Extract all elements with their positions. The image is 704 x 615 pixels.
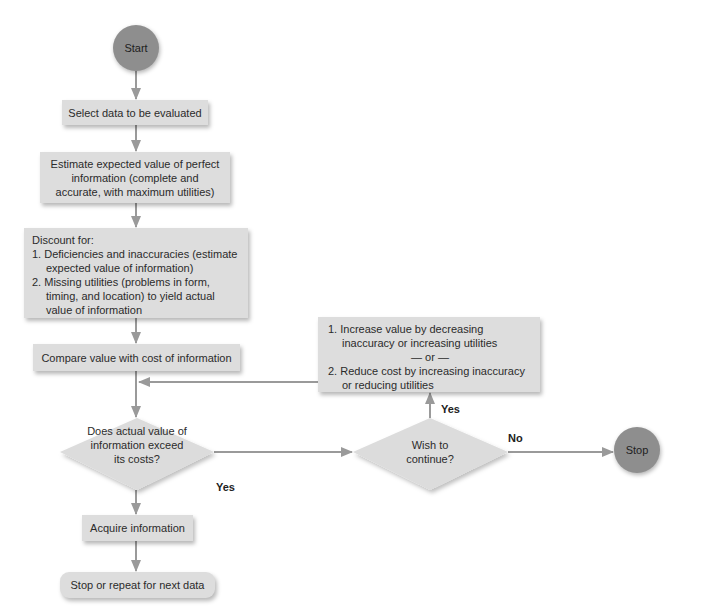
improve-box: 1. Increase value by decreasing inaccura…	[318, 317, 540, 392]
decision-exceed-label: Does actual value of information exceed …	[87, 425, 187, 465]
edge-label-continue-no: No	[508, 432, 523, 444]
improve-item-1: 1. Increase value by decreasing inaccura…	[328, 322, 532, 350]
compare-label: Compare value with cost of information	[41, 351, 231, 365]
discount-title: Discount for:	[32, 233, 240, 247]
discount-box: Discount for: 1. Deficiencies and inaccu…	[24, 228, 248, 318]
select-data-box: Select data to be evaluated	[62, 100, 208, 125]
improve-separator: — or —	[328, 350, 532, 364]
decision-exceed: Does actual value of information exceed …	[85, 424, 189, 466]
estimate-value-box: Estimate expected value of perfect infor…	[40, 152, 230, 203]
select-data-label: Select data to be evaluated	[68, 106, 201, 120]
decision-continue: Wish to continue?	[395, 438, 465, 466]
estimate-value-label: Estimate expected value of perfect infor…	[48, 157, 222, 199]
edge-label-exceed-yes: Yes	[216, 481, 235, 493]
acquire-label: Acquire information	[90, 521, 185, 535]
compare-box: Compare value with cost of information	[33, 344, 240, 371]
repeat-terminal: Stop or repeat for next data	[60, 572, 215, 598]
discount-item-2: 2. Missing utilities (problems in form, …	[32, 275, 240, 317]
start-label: Start	[124, 42, 147, 54]
repeat-label: Stop or repeat for next data	[71, 578, 205, 592]
start-terminal: Start	[113, 25, 159, 71]
edge-label-continue-yes: Yes	[441, 403, 460, 415]
stop-label: Stop	[626, 444, 649, 456]
acquire-box: Acquire information	[82, 515, 193, 541]
discount-item-1: 1. Deficiencies and inaccuracies (estima…	[32, 247, 240, 275]
decision-continue-label: Wish to continue?	[406, 439, 454, 465]
improve-item-2: 2. Reduce cost by increasing inaccuracy …	[328, 364, 532, 392]
stop-terminal: Stop	[614, 427, 660, 473]
